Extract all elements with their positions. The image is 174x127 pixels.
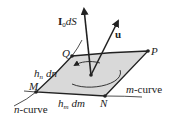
side-n-label: hndn xyxy=(34,67,58,81)
surface-element-diagram: I0dS u Q P M N hndn hmdm n-curve m-curve xyxy=(0,0,174,127)
center-dot xyxy=(89,73,93,77)
velocity-vector-label: u xyxy=(115,28,121,40)
side-m-label: hmdm xyxy=(58,97,85,111)
point-n-label: N xyxy=(99,97,108,109)
n-curve-label: n-curve xyxy=(14,103,48,115)
point-m-label: M xyxy=(28,80,39,92)
point-p-label: P xyxy=(150,45,158,57)
point-q-dot xyxy=(70,54,74,58)
current-vector-label: I0dS xyxy=(58,15,77,29)
m-curve-label: m-curve xyxy=(126,83,162,95)
point-p-dot xyxy=(146,49,150,53)
point-q-label: Q xyxy=(62,47,70,59)
